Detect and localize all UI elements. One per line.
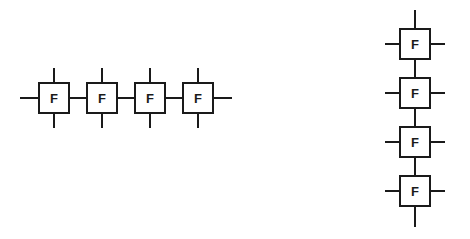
- block-h-3[interactable]: F: [134, 82, 166, 114]
- wire-input-vertical: [414, 10, 416, 30]
- block-label: F: [411, 185, 419, 198]
- wire-stub-bottom-h3: [149, 112, 151, 128]
- wire-stub-right-v4: [429, 190, 445, 192]
- wire-stub-right-v1: [429, 43, 445, 45]
- block-label: F: [411, 38, 419, 51]
- block-v-2[interactable]: F: [399, 77, 431, 109]
- block-v-1[interactable]: F: [399, 28, 431, 60]
- wire-input-horizontal: [20, 97, 40, 99]
- diagram-canvas: F F F F F: [0, 0, 470, 239]
- wire-link-h-2: [116, 97, 136, 99]
- wire-stub-right-v3: [429, 141, 445, 143]
- wire-link-h-3: [164, 97, 184, 99]
- block-v-4[interactable]: F: [399, 175, 431, 207]
- wire-output-vertical: [414, 205, 416, 227]
- block-label: F: [98, 92, 106, 105]
- block-label: F: [146, 92, 154, 105]
- wire-link-v-1: [414, 58, 416, 79]
- block-v-3[interactable]: F: [399, 126, 431, 158]
- block-h-1[interactable]: F: [38, 82, 70, 114]
- wire-stub-right-v2: [429, 92, 445, 94]
- block-label: F: [411, 136, 419, 149]
- wire-link-v-2: [414, 107, 416, 128]
- wire-stub-bottom-h4: [197, 112, 199, 128]
- block-h-2[interactable]: F: [86, 82, 118, 114]
- wire-stub-bottom-h1: [53, 112, 55, 128]
- block-h-4[interactable]: F: [182, 82, 214, 114]
- wire-output-horizontal: [212, 97, 232, 99]
- block-label: F: [411, 87, 419, 100]
- wire-link-v-3: [414, 156, 416, 177]
- wire-link-h-1: [68, 97, 88, 99]
- block-label: F: [50, 92, 58, 105]
- block-label: F: [194, 92, 202, 105]
- wire-stub-bottom-h2: [101, 112, 103, 128]
